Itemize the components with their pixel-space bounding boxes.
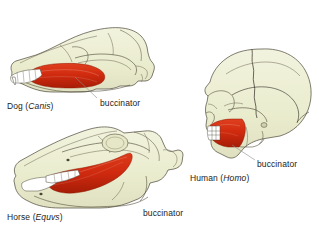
human-auditory-meatus: [261, 123, 267, 128]
horse-genus: Equvs: [36, 212, 60, 222]
callout-buccinator-human: buccinator: [257, 160, 297, 169]
specimen-label-human: Human (Homo): [190, 174, 249, 183]
specimen-label-horse: Horse (Equvs): [7, 213, 63, 222]
human-genus: Homo: [223, 173, 246, 183]
human-teeth: [207, 126, 220, 140]
horse-common-name: Horse: [7, 212, 30, 222]
dog-paren-close: ): [51, 101, 54, 111]
dog-genus: Canis: [28, 101, 50, 111]
comparative-skull-diagram: [0, 0, 319, 241]
specimen-label-dog: Dog (Canis): [7, 102, 53, 111]
human-common-name: Human: [190, 173, 218, 183]
horse-paren-close: ): [60, 212, 63, 222]
callout-buccinator-horse: buccinator: [143, 209, 183, 218]
horse-infraorbital-foramen: [66, 159, 69, 161]
dog-common-name: Dog: [7, 101, 23, 111]
horse-mental-foramen: [39, 193, 42, 195]
callout-buccinator-dog: buccinator: [100, 99, 140, 108]
human-paren-close: ): [246, 173, 249, 183]
